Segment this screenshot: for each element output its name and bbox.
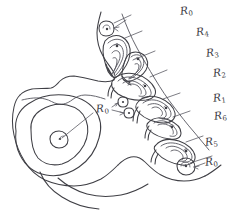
label-r6: R6 <box>213 109 227 123</box>
label-r0-bottom-sub: 0 <box>213 160 219 169</box>
oval-center-circle <box>50 131 68 148</box>
shell-r4 <box>103 36 130 78</box>
label-r2-sub: 2 <box>221 71 227 80</box>
label-r2: R2 <box>212 66 226 80</box>
shell-r5 <box>151 139 195 165</box>
tiny-circle-b <box>124 108 134 118</box>
label-r3: R3 <box>205 46 219 60</box>
arrow-r0-top <box>114 20 126 31</box>
label-r5: R5 <box>204 135 218 149</box>
label-r0-middle: R0 <box>95 102 109 116</box>
label-r1: R1 <box>212 91 226 105</box>
label-r4: R4 <box>195 25 209 39</box>
label-r0-bottom: R0 <box>204 155 218 169</box>
label-r6-sub: 6 <box>222 114 228 123</box>
tick-r4 <box>125 31 142 38</box>
sketch-figure: R0 R4 R3 R2 R1 R6 R5 R0 R0 <box>0 0 237 217</box>
leader-line-r0-oval <box>62 113 93 138</box>
shell-r3 <box>122 52 148 85</box>
label-r0-top-sub: 0 <box>188 9 194 18</box>
label-r1-sub: 1 <box>221 96 227 105</box>
tick-r5 <box>186 136 203 142</box>
large-concentric-oval <box>16 95 101 176</box>
arrow-r0-bottom <box>194 163 205 169</box>
tick-r2 <box>150 70 167 77</box>
label-r3-sub: 3 <box>214 51 220 60</box>
label-r0-top: R0 <box>179 4 193 18</box>
shell-r6 <box>145 118 181 140</box>
label-r4-sub: 4 <box>204 30 210 39</box>
arrow-r0-middle-b <box>112 110 124 115</box>
label-r0-middle-sub: 0 <box>104 107 110 115</box>
tiny-circle-a <box>118 97 128 107</box>
arrow-r0-middle-a <box>112 103 118 107</box>
small-circle-top <box>99 21 114 36</box>
label-r5-sub: 5 <box>213 140 219 149</box>
lower-contour <box>40 172 148 209</box>
